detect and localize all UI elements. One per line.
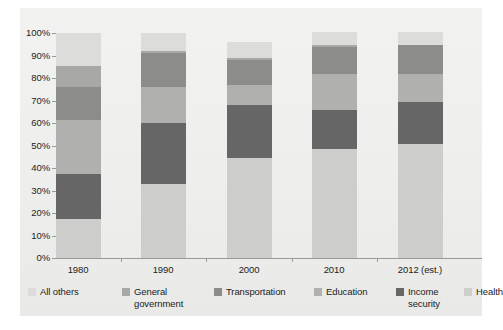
bar-segment[interactable] — [227, 158, 272, 258]
bar-segment[interactable] — [141, 51, 186, 53]
legend-item-label: Education — [326, 286, 367, 298]
bar-segment[interactable] — [398, 74, 443, 102]
bar-segment[interactable] — [312, 32, 357, 46]
y-axis-tick-label-text: 20% — [4, 208, 50, 218]
bar-segment[interactable] — [398, 102, 443, 145]
x-axis-category-label: 2010 — [294, 264, 374, 276]
legend-swatch-icon — [214, 288, 222, 296]
legend-item[interactable]: All others — [28, 286, 79, 298]
y-axis-tick-label-text: 30% — [4, 186, 50, 196]
bar-segment[interactable] — [312, 74, 357, 110]
bar-segment[interactable] — [312, 110, 357, 149]
bar-stack[interactable] — [312, 33, 357, 258]
bar-segment[interactable] — [398, 32, 443, 46]
bar-segment[interactable] — [227, 42, 272, 58]
y-axis-tick-label: 80% — [0, 73, 50, 83]
legend-swatch-icon — [28, 288, 36, 296]
legend-item-label: Health — [476, 286, 503, 298]
y-axis-tick-label: 20% — [0, 208, 50, 218]
y-axis-tick-label-text: 100% — [4, 28, 50, 38]
y-axis-tick-label-text: 60% — [4, 118, 50, 128]
bar-segment[interactable] — [312, 149, 357, 258]
y-axis-tick-label-text: 10% — [4, 231, 50, 241]
bar-stack[interactable] — [398, 33, 443, 258]
bar-segment[interactable] — [312, 47, 357, 74]
bar-segment[interactable] — [56, 219, 101, 258]
bar-segment[interactable] — [56, 33, 101, 66]
y-axis-tick-label: 0% — [0, 253, 50, 263]
bar-segment[interactable] — [141, 123, 186, 184]
bar-segment[interactable] — [141, 184, 186, 258]
x-axis-tick — [206, 258, 207, 262]
bar-segment[interactable] — [227, 58, 272, 60]
x-axis-tick — [377, 258, 378, 262]
legend-item[interactable]: Education — [314, 286, 367, 298]
x-axis-category-label: 1990 — [123, 264, 203, 276]
bar-segment[interactable] — [227, 105, 272, 158]
bar-segment[interactable] — [227, 60, 272, 85]
bar-segment[interactable] — [398, 45, 443, 73]
bar-segment[interactable] — [141, 33, 186, 51]
legend-item[interactable]: Health — [464, 286, 503, 298]
bar-stack[interactable] — [227, 33, 272, 258]
bar-segment[interactable] — [56, 66, 101, 87]
y-axis-tick-label-text: 90% — [4, 51, 50, 61]
y-axis-tick-label: 50% — [0, 141, 50, 151]
y-axis-tick-label: 10% — [0, 231, 50, 241]
x-axis-tick — [121, 258, 122, 262]
y-axis-tick-label: 60% — [0, 118, 50, 128]
bar-segment[interactable] — [141, 53, 186, 87]
legend-swatch-icon — [396, 288, 404, 296]
bar-segment[interactable] — [56, 87, 101, 120]
bar-stack[interactable] — [56, 33, 101, 258]
chart-legend: All othersGeneral governmentTransportati… — [18, 286, 482, 320]
y-axis-tick-label-text: 50% — [4, 141, 50, 151]
y-axis-tick-label: 90% — [0, 51, 50, 61]
y-axis-tick-label: 40% — [0, 163, 50, 173]
legend-item-label: Transportation — [226, 286, 286, 298]
x-axis-category-label: 1980 — [38, 264, 118, 276]
bar-segment[interactable] — [56, 120, 101, 174]
y-axis-tick-label-text: 0% — [4, 253, 50, 263]
bar-segment[interactable] — [141, 87, 186, 123]
y-axis-tick-label-text: 40% — [4, 163, 50, 173]
y-axis-tick — [52, 258, 57, 259]
legend-item-label: General government — [134, 286, 183, 309]
bar-segment[interactable] — [312, 45, 357, 46]
bar-segment[interactable] — [56, 174, 101, 219]
y-axis-tick-label-text: 80% — [4, 73, 50, 83]
legend-item-label: Income security — [408, 286, 440, 309]
legend-swatch-icon — [464, 288, 472, 296]
x-axis-category-label: 2012 (est.) — [380, 264, 460, 276]
bar-stack[interactable] — [141, 33, 186, 258]
legend-swatch-icon — [314, 288, 322, 296]
legend-item[interactable]: Income security — [396, 286, 440, 309]
y-axis-tick-label: 30% — [0, 186, 50, 196]
y-axis-tick-label-text: 70% — [4, 96, 50, 106]
legend-swatch-icon — [122, 288, 130, 296]
legend-item[interactable]: General government — [122, 286, 183, 309]
legend-item-label: All others — [40, 286, 79, 298]
y-axis-tick-label: 100% — [0, 28, 50, 38]
bar-segment[interactable] — [398, 144, 443, 258]
legend-item[interactable]: Transportation — [214, 286, 286, 298]
x-axis-tick — [292, 258, 293, 262]
bar-segment[interactable] — [227, 85, 272, 105]
y-axis-tick-label: 70% — [0, 96, 50, 106]
x-axis-category-label: 2000 — [209, 264, 289, 276]
